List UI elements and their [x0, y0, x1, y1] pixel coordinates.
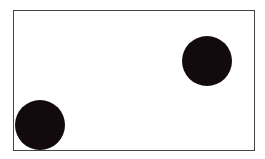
circle-bottom-left	[15, 100, 65, 150]
circle-top-right	[182, 36, 232, 86]
